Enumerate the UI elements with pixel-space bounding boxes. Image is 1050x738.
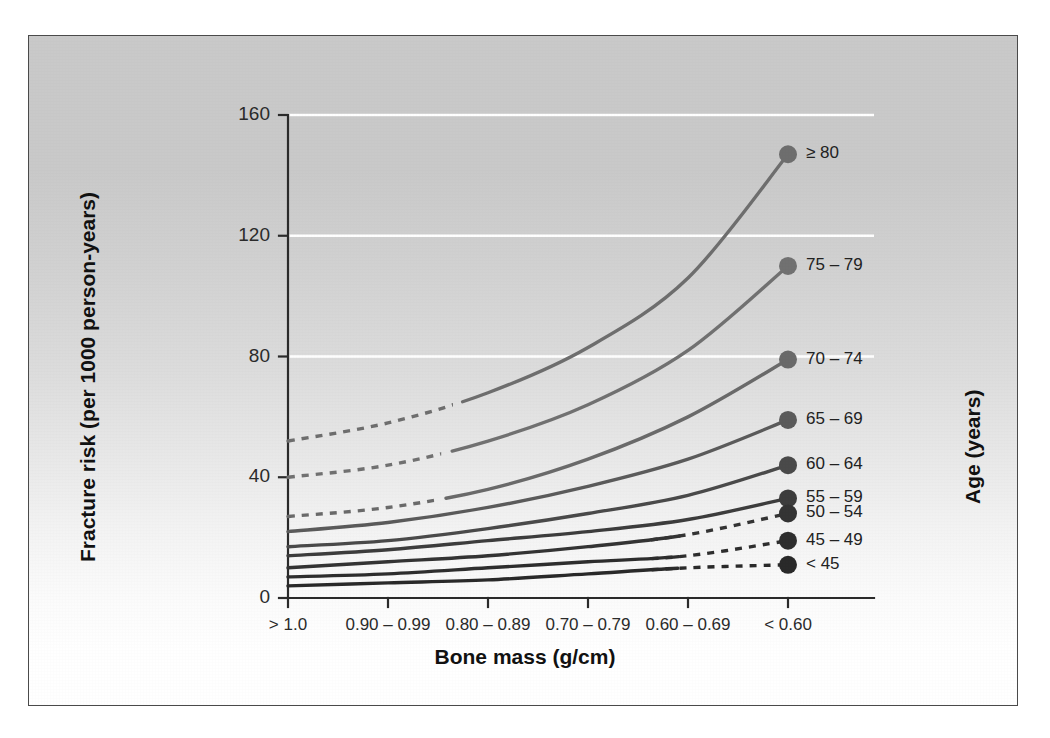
chart-canvas [29,36,1019,707]
series-endpoint-marker [779,257,797,275]
y-axis-tick-label: 120 [202,224,270,246]
series-endpoint-marker [779,411,797,429]
series-endpoint-marker [779,504,797,522]
series-line-dashed [288,360,788,517]
x-axis-tick-label: < 0.60 [728,615,848,635]
series-label: 50 – 54 [806,502,863,522]
series-line [288,541,788,577]
x-axis-title: Bone mass (g/cm) [0,645,1050,669]
y-axis-tick-label: 80 [202,345,270,367]
series-label: 60 – 64 [806,454,863,474]
series-label: 75 – 79 [806,255,863,275]
series-endpoint-marker [779,556,797,574]
y-axis-title: Fracture risk (per 1000 person-years) [76,192,100,562]
series-endpoint-marker [779,145,797,163]
y-axis-tick-label: 40 [202,465,270,487]
series-endpoint-marker [779,351,797,369]
series-label: 45 – 49 [806,530,863,550]
series-label: ≥ 80 [806,143,839,163]
y-axis-tick-label: 160 [202,103,270,125]
series-line [288,498,788,555]
series-label: 70 – 74 [806,349,863,369]
y-axis-tick-label: 0 [202,586,270,608]
figure-frame: 04080120160 > 1.00.90 – 0.990.80 – 0.890… [28,35,1018,706]
markers-group [779,145,797,574]
series-line [288,154,788,441]
series-label: 65 – 69 [806,409,863,429]
series-endpoint-marker [779,456,797,474]
series-line-dashed [288,541,788,577]
figure-page: 04080120160 > 1.00.90 – 0.990.80 – 0.890… [0,0,1050,738]
series-group [288,154,788,586]
series-endpoint-marker [779,532,797,550]
legend-title: Age (years) [961,390,985,504]
series-line [288,360,788,517]
series-label: < 45 [806,554,840,574]
series-line-dashed [288,154,788,441]
